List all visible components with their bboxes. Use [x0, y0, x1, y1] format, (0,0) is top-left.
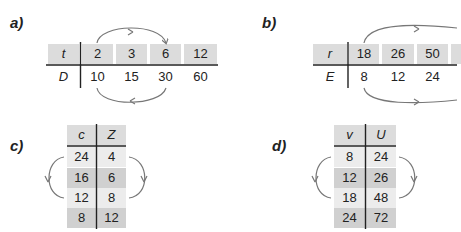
arrowhead-d-right	[411, 176, 417, 182]
table-a-rules	[46, 42, 218, 88]
arrow-a-top	[97, 28, 166, 43]
arrowhead-b-top	[414, 26, 419, 32]
table-d-rules	[334, 124, 396, 229]
arrow-b-bottom	[364, 88, 457, 103]
table-c-rules	[67, 124, 126, 229]
arrowhead-c-right	[141, 176, 147, 182]
table-b-rules	[313, 42, 457, 88]
arrowhead-a-top	[128, 29, 133, 35]
arrow-c-left	[49, 157, 64, 198]
arrow-d-left	[316, 157, 331, 198]
arrow-b-top	[364, 25, 457, 43]
arrowhead-d-left	[312, 176, 318, 182]
arrowhead-a-bottom	[130, 98, 135, 104]
arrowhead-b-bottom	[414, 99, 419, 105]
arrowhead-c-left	[45, 176, 51, 182]
